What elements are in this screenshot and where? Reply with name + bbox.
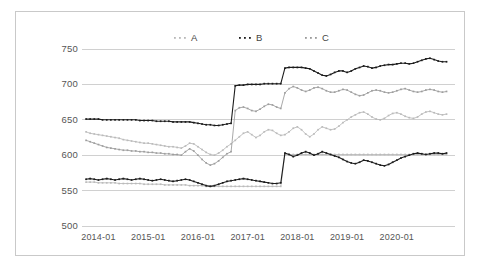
series-marker-c xyxy=(131,150,133,152)
series-marker-a xyxy=(437,113,439,115)
series-marker-a xyxy=(292,127,294,129)
series-marker-c xyxy=(388,92,390,94)
series-marker-c xyxy=(284,92,286,94)
series-marker-a-lower xyxy=(388,154,390,156)
series-marker-b-lower xyxy=(218,183,220,185)
series-marker-a-lower xyxy=(384,154,386,156)
series-marker-a xyxy=(359,112,361,114)
series-marker-b xyxy=(321,74,323,76)
series-marker-b xyxy=(230,123,232,125)
series-marker-a xyxy=(297,126,299,128)
series-marker-b xyxy=(139,120,141,122)
series-marker-b-lower xyxy=(429,153,431,155)
series-marker-b xyxy=(123,119,125,121)
series-marker-a-lower xyxy=(280,186,282,188)
series-marker-b-lower xyxy=(433,152,435,154)
series-marker-b xyxy=(135,119,137,121)
series-marker-b xyxy=(429,57,431,59)
series-marker-a xyxy=(93,133,95,135)
series-marker-c xyxy=(400,89,402,91)
series-marker-a xyxy=(102,135,104,137)
series-marker-b-lower xyxy=(334,155,336,157)
series-marker-b-lower xyxy=(98,179,100,181)
series-marker-a xyxy=(375,118,377,120)
series-marker-b xyxy=(350,70,352,72)
series-marker-a xyxy=(288,131,290,133)
series-marker-c xyxy=(346,89,348,91)
series-marker-a-lower xyxy=(139,183,141,185)
series-marker-b-lower xyxy=(309,152,311,154)
series-marker-c xyxy=(446,91,448,93)
series-marker-c xyxy=(127,149,129,151)
series-marker-b-lower xyxy=(243,178,245,180)
series-marker-b-lower xyxy=(147,179,149,181)
series-marker-c xyxy=(276,106,278,108)
series-marker-c xyxy=(263,106,265,108)
series-marker-a xyxy=(118,137,120,139)
series-marker-c xyxy=(334,91,336,93)
series-marker-c xyxy=(342,89,344,91)
series-marker-a xyxy=(147,142,149,144)
series-marker-a-lower xyxy=(292,154,294,156)
series-marker-a-lower xyxy=(342,154,344,156)
series-marker-c xyxy=(201,159,203,161)
series-marker-a xyxy=(247,131,249,133)
series-marker-b-lower xyxy=(152,180,154,182)
series-marker-b-lower xyxy=(338,157,340,159)
series-marker-b-lower xyxy=(85,178,87,180)
series-marker-a-lower xyxy=(197,185,199,187)
legend-item-a[interactable]: A xyxy=(172,31,197,43)
x-axis-tick-label: 2020-01 xyxy=(367,232,427,242)
series-marker-a-lower xyxy=(110,182,112,184)
series-marker-b-lower xyxy=(367,160,369,162)
series-marker-c xyxy=(139,151,141,153)
series-marker-b xyxy=(292,67,294,69)
series-marker-b xyxy=(127,119,129,121)
series-marker-b-lower xyxy=(400,157,402,159)
series-marker-a xyxy=(85,131,87,133)
series-marker-c xyxy=(147,152,149,154)
series-marker-c xyxy=(268,103,270,105)
series-marker-b-lower xyxy=(442,153,444,155)
series-marker-b-lower xyxy=(263,181,265,183)
series-marker-c xyxy=(338,90,340,92)
series-marker-c xyxy=(189,148,191,150)
series-marker-b-lower xyxy=(123,178,125,180)
series-marker-a xyxy=(189,142,191,144)
series-marker-b xyxy=(263,83,265,85)
series-marker-b-lower xyxy=(106,178,108,180)
series-marker-a-lower xyxy=(156,183,158,185)
series-marker-b xyxy=(226,123,228,125)
series-marker-b xyxy=(384,64,386,66)
series-marker-b-lower xyxy=(371,161,373,163)
series-marker-a xyxy=(234,140,236,142)
series-marker-a xyxy=(313,133,315,135)
series-marker-b xyxy=(210,124,212,126)
legend-item-c[interactable]: C xyxy=(303,31,329,43)
series-marker-b-lower xyxy=(127,178,129,180)
series-marker-a-lower xyxy=(272,186,274,188)
series-marker-a xyxy=(321,126,323,128)
series-marker-b xyxy=(417,61,419,63)
series-marker-c xyxy=(326,90,328,92)
series-marker-b xyxy=(185,121,187,123)
series-marker-c xyxy=(106,147,108,149)
series-marker-c xyxy=(123,149,125,151)
series-marker-a-lower xyxy=(160,183,162,185)
series-marker-c xyxy=(350,91,352,93)
series-marker-a xyxy=(210,154,212,156)
series-marker-c xyxy=(114,148,116,150)
series-marker-c xyxy=(234,110,236,112)
series-marker-a-lower xyxy=(263,186,265,188)
series-marker-a xyxy=(98,134,100,136)
series-marker-b-lower xyxy=(135,178,137,180)
legend-item-b[interactable]: B xyxy=(237,31,262,43)
series-marker-c xyxy=(437,91,439,93)
series-marker-c xyxy=(417,91,419,93)
series-marker-b xyxy=(346,72,348,74)
series-marker-c xyxy=(259,108,261,110)
series-marker-b-lower xyxy=(388,164,390,166)
series-marker-a-lower xyxy=(367,154,369,156)
series-marker-b xyxy=(218,125,220,127)
series-marker-a xyxy=(272,130,274,132)
